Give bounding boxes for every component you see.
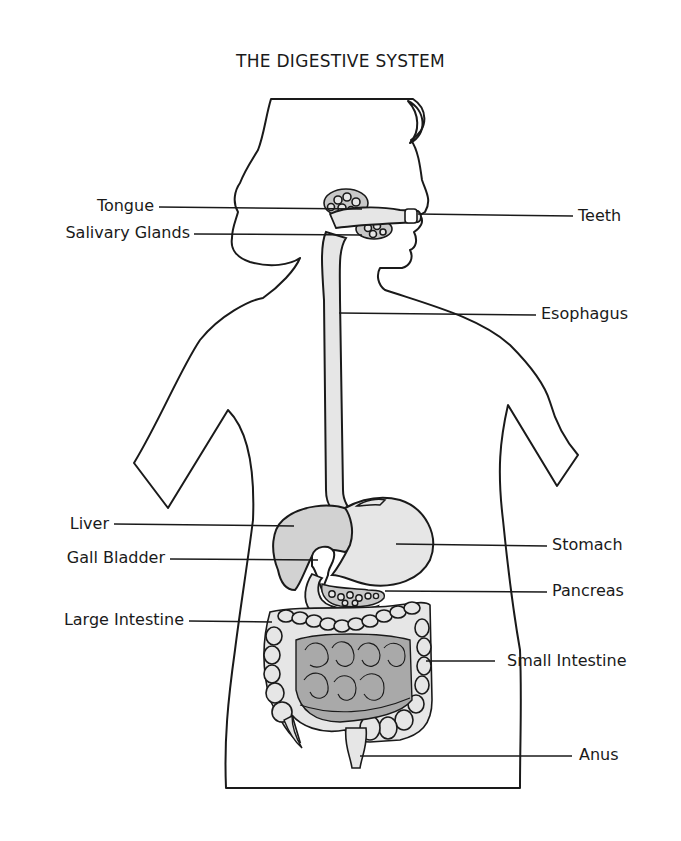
leader-pancreas (385, 591, 547, 592)
digestive-system-illustration (0, 0, 681, 841)
leader-gall-bladder (170, 559, 318, 560)
teeth-shape (405, 209, 417, 223)
leader-esophagus (339, 313, 536, 315)
label-esophagus: Esophagus (541, 305, 628, 323)
pancreas-shape (322, 584, 385, 607)
label-large-intestine: Large Intestine (64, 611, 184, 629)
label-tongue: Tongue (97, 197, 154, 215)
small-intestine-shape (296, 634, 412, 722)
label-liver: Liver (70, 515, 109, 533)
label-salivary-glands: Salivary Glands (65, 224, 190, 242)
label-teeth: Teeth (578, 207, 621, 225)
label-gall-bladder: Gall Bladder (67, 549, 165, 567)
leader-salivary-glands (194, 234, 362, 235)
leader-liver (114, 524, 294, 526)
label-anus: Anus (579, 746, 619, 764)
leader-teeth (418, 214, 573, 216)
label-stomach: Stomach (552, 536, 623, 554)
rectum-shape (346, 728, 367, 768)
label-pancreas: Pancreas (552, 582, 624, 600)
esophagus-tube (322, 232, 357, 516)
label-small-intestine: Small Intestine (507, 652, 627, 670)
leader-large-intestine (189, 621, 272, 622)
